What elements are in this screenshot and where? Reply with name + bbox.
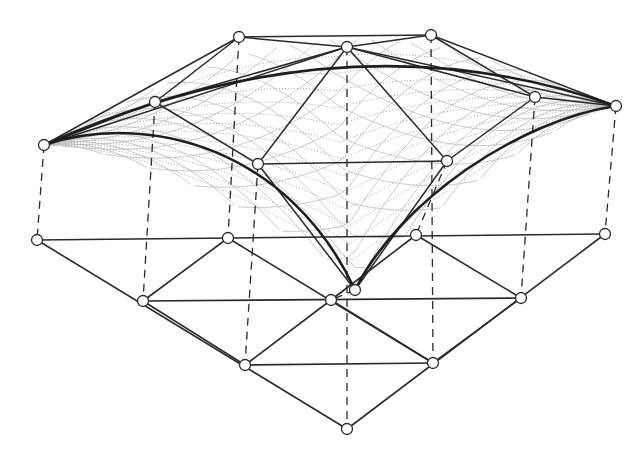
ground-member: [245, 300, 331, 365]
projection-line: [143, 102, 155, 301]
upper-joint-node: [442, 156, 453, 167]
upper-joint-node: [253, 159, 264, 170]
mesh-contour: [44, 97, 616, 145]
projection-line: [37, 145, 44, 240]
strut-member: [155, 102, 258, 164]
strut-member: [347, 47, 535, 97]
strut-member: [347, 35, 431, 47]
ground-joint-node: [223, 233, 234, 244]
ground-member: [143, 301, 245, 365]
ground-member: [433, 298, 521, 363]
ground-joint-node: [240, 360, 251, 371]
projection-line: [228, 37, 239, 238]
mesh-diagonal: [49, 144, 146, 168]
ground-joint-node: [326, 295, 337, 306]
mesh-diagonal: [48, 145, 102, 154]
ground-member: [245, 363, 433, 365]
mesh-diagonal: [50, 142, 191, 185]
ground-joint-node: [342, 424, 353, 435]
mesh-diagonal: [49, 41, 318, 145]
ground-joint-node: [138, 296, 149, 307]
ground-member: [331, 300, 433, 363]
projection-line: [521, 97, 535, 298]
mesh-diagonal: [207, 67, 515, 164]
ground-joint-node: [516, 293, 527, 304]
upper-joint-node: [234, 32, 245, 43]
mesh-diagonal: [194, 58, 481, 188]
diagram-canvas: [0, 0, 643, 457]
upper-joint-node: [611, 101, 622, 112]
ground-member: [143, 238, 228, 301]
upper-joint-node: [150, 97, 161, 108]
ground-member: [416, 235, 521, 298]
ground-joint-node: [600, 229, 611, 240]
strut-member: [239, 37, 347, 47]
upper-joint-node: [426, 30, 437, 41]
upper-joint-node: [39, 140, 50, 151]
projection-line: [245, 164, 258, 365]
ground-member: [37, 240, 347, 429]
strut-member: [347, 47, 447, 161]
projection-line: [605, 106, 616, 234]
strut-member: [447, 97, 535, 161]
joint-nodes: [32, 30, 622, 435]
mesh-diagonal: [54, 119, 366, 268]
mesh-diagonal: [406, 101, 616, 235]
ground-grid: [37, 234, 605, 429]
strut-member: [258, 161, 447, 164]
ground-joint-node: [411, 230, 422, 241]
ground-joint-node: [428, 358, 439, 369]
roof-structure-diagram: [0, 0, 643, 457]
ground-joint-node: [32, 235, 43, 246]
strut-member: [347, 47, 616, 106]
upper-joint-node: [342, 42, 353, 53]
upper-joint-node: [530, 92, 541, 103]
strut-member: [239, 35, 431, 37]
mesh-diagonal: [412, 43, 612, 106]
projection-line: [431, 35, 433, 363]
upper-joint-node: [350, 285, 361, 296]
upper-struts: [44, 35, 616, 290]
mesh-diagonal: [52, 133, 279, 229]
